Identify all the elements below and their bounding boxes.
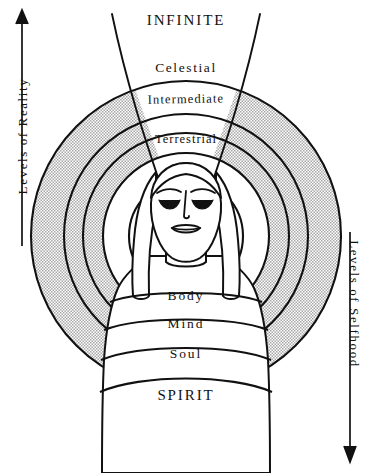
right-axis-label: Levels of Selfhood [346,219,362,389]
diagram-canvas: INFINITE Celestial Intermediate Terrestr… [0,0,372,473]
label-spirit: SPIRIT [157,387,214,403]
label-soul: Soul [170,346,202,361]
levels-of-reality-diagram: INFINITE Celestial Intermediate Terrestr… [0,0,372,473]
label-mind: Mind [168,316,205,331]
label-terrestrial: Terrestrial [155,132,217,146]
label-intermediate: Intermediate [148,91,225,106]
left-axis-label: Levels of Reality [15,56,31,216]
label-infinite: INFINITE [147,12,226,28]
label-body: Body [168,288,205,303]
label-celestial: Celestial [155,60,217,75]
